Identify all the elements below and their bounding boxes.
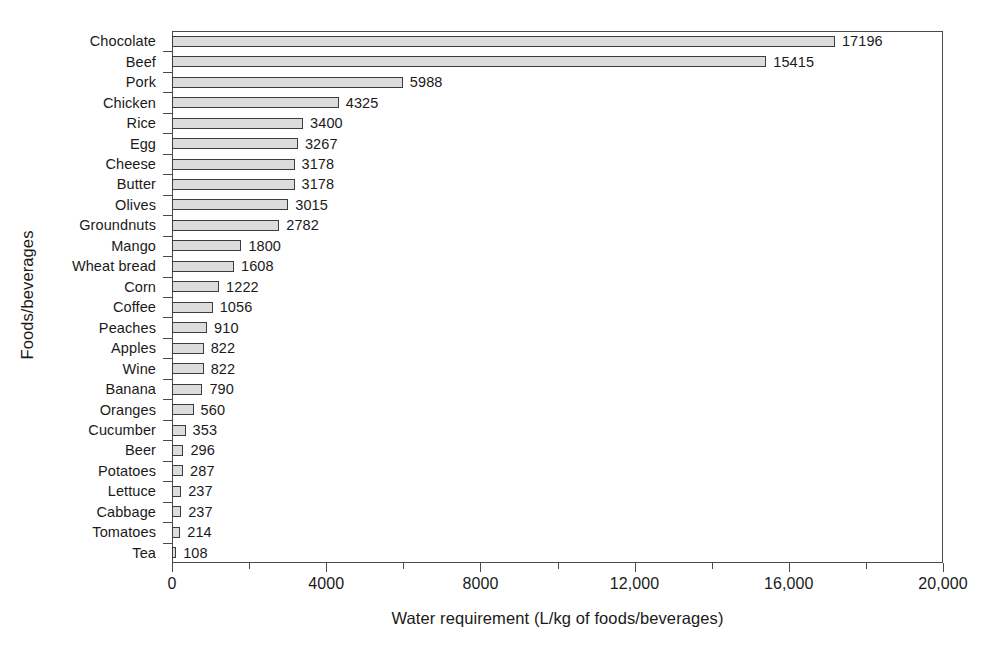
x-axis-tick bbox=[635, 563, 636, 572]
y-axis-tick bbox=[163, 379, 172, 380]
y-axis-tick bbox=[163, 420, 172, 421]
y-axis-category-label: Lettuce bbox=[108, 482, 156, 500]
y-axis-category-label: Egg bbox=[130, 135, 156, 153]
y-axis-category-label: Tea bbox=[132, 544, 156, 562]
x-axis-minor-tick bbox=[403, 563, 404, 569]
y-axis-category-label: Peaches bbox=[99, 319, 156, 337]
y-axis-tick bbox=[163, 522, 172, 523]
y-axis-category-label: Banana bbox=[105, 380, 156, 398]
x-axis-minor-tick bbox=[866, 563, 867, 569]
y-axis-tick bbox=[163, 113, 172, 114]
y-axis-category-label: Cabbage bbox=[96, 503, 156, 521]
y-axis-category-labels: ChocolateBeefPorkChickenRiceEggCheeseBut… bbox=[30, 31, 164, 563]
y-axis-category-label: Oranges bbox=[100, 401, 156, 419]
y-axis-category-label: Beer bbox=[125, 441, 156, 459]
x-axis-minor-tick bbox=[558, 563, 559, 569]
y-axis-tick bbox=[163, 72, 172, 73]
y-axis-tick bbox=[163, 440, 172, 441]
x-axis-tick bbox=[326, 563, 327, 572]
y-axis-tick bbox=[163, 277, 172, 278]
x-axis-tick-label: 4000 bbox=[266, 573, 386, 595]
y-axis-tick bbox=[163, 399, 172, 400]
y-axis-category-label: Butter bbox=[117, 175, 156, 193]
y-axis-tick bbox=[163, 154, 172, 155]
y-axis-category-label: Corn bbox=[124, 278, 156, 296]
bar-chart: Foods/beverages ChocolateBeefPorkChicken… bbox=[0, 0, 999, 665]
y-axis-category-label: Coffee bbox=[113, 298, 156, 316]
y-axis-category-label: Wine bbox=[123, 360, 156, 378]
y-axis-category-label: Potatoes bbox=[98, 462, 156, 480]
plot-area bbox=[172, 31, 943, 563]
y-axis-tick bbox=[163, 236, 172, 237]
y-axis-category-label: Chicken bbox=[103, 94, 156, 112]
y-axis-tick bbox=[163, 543, 172, 544]
y-axis-tick bbox=[163, 338, 172, 339]
y-axis-tick bbox=[163, 317, 172, 318]
x-axis-tick bbox=[172, 563, 173, 572]
x-axis-tick bbox=[789, 563, 790, 572]
y-axis-tick bbox=[163, 133, 172, 134]
y-axis-category-label: Wheat bread bbox=[72, 257, 156, 275]
y-axis-category-label: Cheese bbox=[105, 155, 156, 173]
y-axis-category-label: Apples bbox=[111, 339, 156, 357]
y-axis-category-label: Olives bbox=[115, 196, 156, 214]
y-axis-category-label: Chocolate bbox=[90, 32, 156, 50]
x-axis-tick-label: 12,000 bbox=[575, 573, 695, 595]
y-axis-tick bbox=[163, 51, 172, 52]
x-axis-minor-tick bbox=[249, 563, 250, 569]
x-axis-tick bbox=[943, 563, 944, 572]
x-axis-minor-tick bbox=[712, 563, 713, 569]
y-axis-tick bbox=[163, 297, 172, 298]
y-axis-category-label: Pork bbox=[126, 73, 156, 91]
y-axis-tick bbox=[163, 92, 172, 93]
y-axis-category-label: Mango bbox=[111, 237, 156, 255]
y-axis-tick bbox=[163, 358, 172, 359]
x-axis-tick-label: 16,000 bbox=[729, 573, 849, 595]
x-axis-tick-label: 8000 bbox=[420, 573, 540, 595]
y-axis-category-label: Groundnuts bbox=[79, 216, 156, 234]
y-axis-tick bbox=[163, 502, 172, 503]
y-axis-tick bbox=[163, 256, 172, 257]
y-axis-category-label: Beef bbox=[126, 53, 156, 71]
y-axis-tick bbox=[163, 174, 172, 175]
x-axis-tick-label: 20,000 bbox=[883, 573, 999, 595]
x-axis-title: Water requirement (L/kg of foods/beverag… bbox=[172, 606, 943, 630]
y-axis-tick bbox=[163, 195, 172, 196]
y-axis-tick bbox=[163, 461, 172, 462]
y-axis-category-label: Rice bbox=[127, 114, 156, 132]
y-axis-tick bbox=[163, 481, 172, 482]
y-axis-category-label: Cucumber bbox=[88, 421, 156, 439]
y-axis-category-label: Tomatoes bbox=[92, 523, 156, 541]
x-axis-tick bbox=[480, 563, 481, 572]
x-axis-tick-label: 0 bbox=[112, 573, 232, 595]
y-axis-tick bbox=[163, 215, 172, 216]
